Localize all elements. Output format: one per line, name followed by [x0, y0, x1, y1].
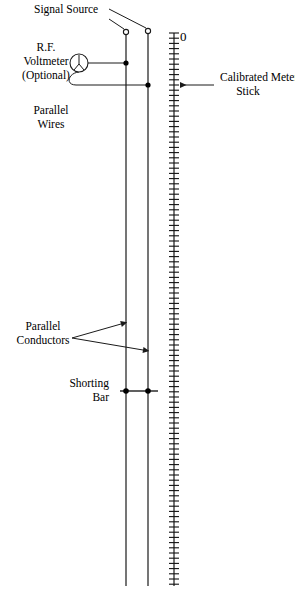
- calibrated-meter-stick: [169, 33, 179, 586]
- parallel-conductors-arrow-upper: [72, 324, 121, 338]
- meter-stick-tick-marks: [169, 33, 179, 584]
- parallel-wires-label-line2: Wires: [38, 118, 66, 130]
- signal-source-terminals: [123, 28, 150, 34]
- left-terminal-icon: [123, 29, 128, 34]
- rf-voltmeter-label-line3: (Optional): [22, 69, 70, 82]
- rf-voltmeter-label-line2: Voltmeter: [23, 55, 68, 67]
- calibrated-meter-stick-label-line2: Stick: [236, 85, 260, 97]
- rf-voltmeter-symbol: [69, 54, 148, 85]
- left-conductor-junction-dot: [123, 60, 128, 65]
- scale-zero-label: 0: [180, 29, 187, 44]
- parallel-conductors-label-line2: Conductors: [16, 334, 70, 346]
- right-terminal-icon: [145, 28, 150, 33]
- signal-source-leader-to-left-terminal: [109, 19, 124, 29]
- shorting-bar-left-contact-dot: [123, 388, 129, 394]
- signal-source-label: Signal Source: [34, 3, 98, 16]
- voltmeter-bottom-lead: [69, 72, 148, 85]
- callout-arrows: [72, 85, 214, 350]
- right-conductor-junction-dot: [145, 82, 150, 87]
- rf-voltmeter-label-line1: R.F.: [37, 41, 56, 53]
- parallel-wires-label-line1: Parallel: [33, 104, 68, 116]
- shorting-bar: [120, 388, 158, 394]
- diagram-canvas: Signal Source R.F. Voltmeter (Optional) …: [0, 0, 295, 593]
- shorting-bar-right-contact-dot: [145, 388, 151, 394]
- shorting-bar-label-line1: Shorting: [69, 377, 109, 390]
- parallel-conductor-pair: [126, 33, 148, 586]
- signal-source-leader-lines: [109, 9, 146, 29]
- parallel-conductors-label-line1: Parallel: [25, 320, 60, 332]
- conductor-junction-dots: [123, 60, 150, 87]
- parallel-conductors-arrow-lower: [72, 338, 143, 350]
- transmission-line-diagram: Signal Source R.F. Voltmeter (Optional) …: [0, 0, 295, 593]
- calibrated-meter-stick-label-line1: Calibrated Meter: [220, 71, 295, 83]
- shorting-bar-label-line2: Bar: [92, 391, 109, 403]
- signal-source-leader-to-right-terminal: [109, 9, 146, 28]
